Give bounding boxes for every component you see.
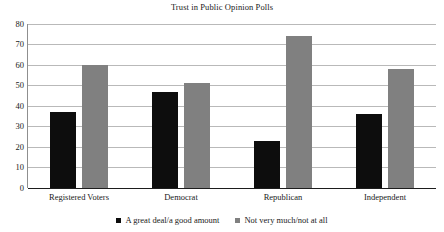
y-axis-tick-label: 10 (2, 163, 24, 172)
bar-chart: Trust in Public Opinion Polls 0102030405… (0, 0, 444, 232)
legend-item: Not very much/not at all (235, 215, 327, 225)
bar (50, 112, 76, 188)
y-axis-tick-label: 70 (2, 40, 24, 49)
y-axis-tick-label: 30 (2, 122, 24, 131)
legend-swatch-icon (235, 218, 240, 223)
bar (152, 92, 178, 188)
y-axis-tick-label: 40 (2, 102, 24, 111)
plot-area (28, 24, 436, 188)
chart-title: Trust in Public Opinion Polls (0, 2, 444, 12)
legend-item: A great deal/a good amount (116, 215, 219, 225)
bar (254, 141, 280, 188)
x-axis-tick-label: Registered Voters (28, 192, 130, 203)
y-axis-tick-label: 80 (2, 20, 24, 29)
x-axis-tick-label: Democrat (130, 192, 232, 203)
x-axis-tick-label: Republican (232, 192, 334, 203)
bar-group (232, 24, 334, 188)
legend-swatch-icon (116, 218, 121, 223)
x-axis-line (28, 188, 436, 189)
bar-group (334, 24, 436, 188)
x-axis-tick-label: Independent (334, 192, 436, 203)
y-axis-tick-labels: 01020304050607080 (0, 24, 24, 188)
legend-label: Not very much/not at all (244, 215, 327, 225)
chart-legend: A great deal/a good amountNot very much/… (0, 215, 444, 225)
y-axis-tick-label: 0 (2, 184, 24, 193)
y-axis-tick-label: 20 (2, 143, 24, 152)
bar (356, 114, 382, 188)
bar-group (130, 24, 232, 188)
bar (82, 65, 108, 188)
x-axis-category-labels: Registered VotersDemocratRepublicanIndep… (28, 192, 436, 206)
bar (286, 36, 312, 188)
bar (184, 83, 210, 188)
y-axis-tick-label: 50 (2, 81, 24, 90)
bar (388, 69, 414, 188)
legend-label: A great deal/a good amount (125, 215, 219, 225)
bar-group (28, 24, 130, 188)
y-axis-tick-label: 60 (2, 61, 24, 70)
